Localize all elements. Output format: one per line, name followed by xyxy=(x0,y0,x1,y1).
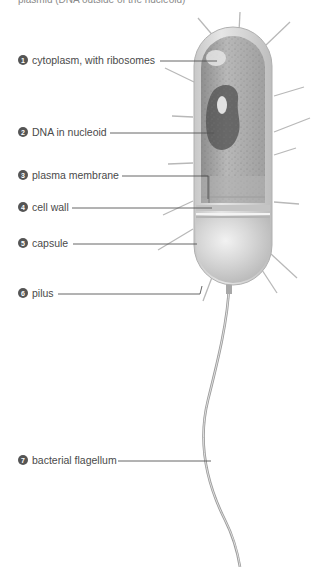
label-dna-nucleoid: 2 DNA in nucleoid xyxy=(18,126,107,138)
leader-lines xyxy=(58,61,217,461)
label-plasma-membrane: 3 plasma membrane xyxy=(18,169,119,181)
number-badge-1: 1 xyxy=(18,55,28,65)
number-badge-5: 5 xyxy=(18,238,28,248)
label-capsule: 5 capsule xyxy=(18,237,68,249)
label-text: bacterial flagellum xyxy=(32,454,117,466)
label-text: DNA in nucleoid xyxy=(32,126,107,138)
bacterium-illustration xyxy=(0,0,322,567)
label-text: cytoplasm, with ribosomes xyxy=(32,54,155,66)
number-badge-3: 3 xyxy=(18,170,28,180)
number-badge-4: 4 xyxy=(18,202,28,212)
label-text: capsule xyxy=(32,237,68,249)
label-cytoplasm: 1 cytoplasm, with ribosomes xyxy=(18,54,155,66)
label-flagellum: 7 bacterial flagellum xyxy=(18,454,117,466)
number-badge-2: 2 xyxy=(18,127,28,137)
label-text: cell wall xyxy=(32,201,69,213)
label-cell-wall: 4 cell wall xyxy=(18,201,69,213)
label-text: plasma membrane xyxy=(32,169,119,181)
label-text: pilus xyxy=(32,287,54,299)
number-badge-6: 6 xyxy=(18,288,28,298)
label-pilus: 6 pilus xyxy=(18,287,54,299)
flagellum xyxy=(203,280,240,567)
number-badge-7: 7 xyxy=(18,455,28,465)
